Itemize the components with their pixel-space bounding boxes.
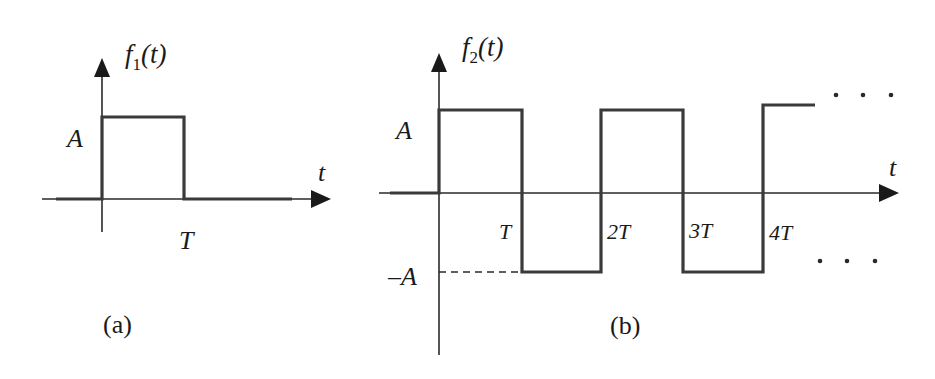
caption-b: (b): [610, 311, 640, 340]
amplitude-label-a: A: [65, 124, 83, 153]
x-axis-arrow-icon: [311, 190, 331, 208]
signal-diagram: f1(t) A t T (a) f2(t) A –A t T 2T 3: [0, 0, 935, 379]
function-label-b: f2(t): [462, 32, 504, 67]
tick-label-2T: 2T: [607, 219, 632, 244]
tick-label-4T: 4T: [769, 220, 794, 245]
tick-label-T: T: [499, 219, 513, 244]
period-label-a: T: [179, 226, 195, 255]
square-wave-signal: [390, 105, 815, 272]
function-label-a: f1(t): [125, 39, 167, 74]
figure-a: f1(t) A t T (a): [42, 39, 331, 339]
x-axis-arrow-icon: [879, 184, 899, 202]
continuation-dots-top: [834, 93, 894, 98]
tick-label-3T: 3T: [688, 218, 714, 243]
time-axis-label-b: t: [889, 153, 897, 182]
caption-a: (a): [103, 310, 132, 339]
neg-amplitude-label-b: –A: [387, 262, 417, 291]
amplitude-label-b: A: [394, 116, 412, 145]
y-axis-arrow-icon: [431, 53, 447, 72]
continuation-dots-bottom: [818, 259, 878, 264]
figure-b: f2(t) A –A t T 2T 3T 4T (b): [379, 32, 899, 355]
y-axis-arrow-icon: [94, 58, 110, 77]
time-axis-label-a: t: [318, 158, 326, 187]
pulse-signal: [56, 117, 292, 199]
